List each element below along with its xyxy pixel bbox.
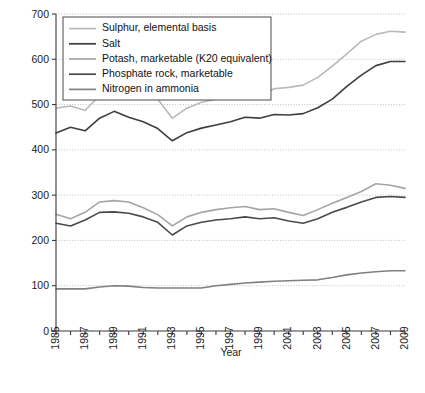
- x-tick-label: 1989: [107, 326, 119, 350]
- chart-legend: Sulphur, elemental basisSaltPotash, mark…: [63, 17, 272, 100]
- y-tick-label: 400: [31, 143, 49, 155]
- series-line-3: [56, 197, 405, 235]
- x-tick-label: 2007: [369, 326, 381, 350]
- x-tick-label: 1985: [49, 326, 61, 350]
- x-axis-title: Year: [220, 346, 242, 358]
- legend-label-0: Sulphur, elemental basis: [102, 21, 216, 33]
- x-tick-label: 1995: [194, 326, 206, 350]
- y-tick-label: 300: [31, 189, 49, 201]
- y-tick-label: 700: [31, 8, 49, 20]
- x-tick-label: 1991: [136, 326, 148, 350]
- x-tick-label: 2009: [398, 326, 410, 350]
- legend-label-2: Potash, marketable (K20 equivalent): [102, 52, 272, 64]
- chart-container: 0100200300400500600700 19851987198919911…: [0, 0, 425, 393]
- y-tick-label: 500: [31, 98, 49, 110]
- y-tick-label: 100: [31, 279, 49, 291]
- line-chart: 0100200300400500600700 19851987198919911…: [0, 0, 425, 393]
- legend-label-3: Phosphate rock, marketable: [102, 67, 233, 79]
- x-tick-label: 1993: [165, 326, 177, 350]
- x-tick-label: 2005: [340, 326, 352, 350]
- x-tick-label: 1987: [78, 326, 90, 350]
- x-tick-label: 1999: [252, 326, 264, 350]
- series-line-4: [56, 271, 405, 289]
- legend-label-4: Nitrogen in ammonia: [102, 82, 199, 94]
- y-tick-label: 600: [31, 53, 49, 65]
- y-axis-tick-labels: 0100200300400500600700: [31, 8, 49, 337]
- legend-label-1: Salt: [102, 37, 120, 49]
- x-tick-label: 2001: [281, 326, 293, 350]
- y-tick-label: 200: [31, 234, 49, 246]
- x-tick-label: 2003: [311, 326, 323, 350]
